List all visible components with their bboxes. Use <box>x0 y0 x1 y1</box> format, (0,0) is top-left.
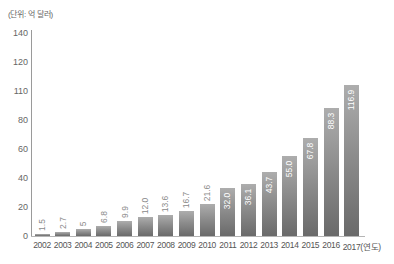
x-tick-label: 2007 <box>136 240 154 250</box>
y-tick-label: 40 <box>18 173 28 183</box>
bar-value-label: 16.7 <box>181 191 191 208</box>
x-tick-label: 2003 <box>54 240 72 250</box>
x-axis-line <box>31 236 365 237</box>
bar-value-label: 116.9 <box>347 89 357 110</box>
bar-value-label: 55.0 <box>285 160 295 177</box>
bar-value-label: 2.7 <box>58 217 68 229</box>
x-tick-label: 2005 <box>95 240 113 250</box>
bar-value-label: 88.3 <box>326 112 336 129</box>
bar-value-label: 13.6 <box>161 195 171 212</box>
y-tick-label: 110 <box>14 86 28 96</box>
bar-2005 <box>96 226 111 236</box>
x-tick-label: 2011 <box>219 240 236 250</box>
y-axis-line <box>31 30 32 237</box>
bar-value-label: 1.5 <box>37 219 47 231</box>
y-tick-label: 140 <box>13 28 28 38</box>
bar-2004 <box>76 229 91 236</box>
x-tick-label: 2016 <box>322 240 340 250</box>
bar-value-label: 9.9 <box>120 206 130 218</box>
x-tick-label: 2012 <box>240 240 258 250</box>
x-tick-label: 2010 <box>198 240 216 250</box>
bar-value-label: 32.0 <box>223 192 233 209</box>
bar-value-label: 6.8 <box>99 211 109 223</box>
x-tick-label: 2013 <box>260 240 278 250</box>
bar-value-label: 67.8 <box>305 142 315 159</box>
bar-2002 <box>35 234 50 236</box>
bar-value-label: 12.0 <box>140 197 150 214</box>
x-tick-label: 2017(연도) <box>343 240 381 252</box>
x-tick-label: 2015 <box>302 240 320 250</box>
bar-value-label: 43.7 <box>264 176 274 193</box>
x-tick-label: 2006 <box>116 240 134 250</box>
y-tick-label: 0 <box>23 231 28 241</box>
y-tick-label: 20 <box>18 202 28 212</box>
y-tick-label: 60 <box>18 144 28 154</box>
bar-2006 <box>117 221 132 236</box>
y-tick-label: 120 <box>13 57 28 67</box>
bar-value-label: 36.1 <box>243 188 253 205</box>
y-tick-label: 80 <box>18 115 28 125</box>
x-tick-label: 2004 <box>74 240 92 250</box>
bar-2010 <box>200 204 215 236</box>
bar-value-label: 21.6 <box>202 184 212 201</box>
bar-2009 <box>179 211 194 236</box>
x-tick-label: 2009 <box>178 240 196 250</box>
bar-2007 <box>138 217 153 236</box>
bar-2003 <box>55 232 70 236</box>
x-tick-label: 2014 <box>281 240 299 250</box>
x-tick-label: 2002 <box>33 240 51 250</box>
x-tick-label: 2008 <box>157 240 175 250</box>
bar-value-label: 5 <box>78 221 88 226</box>
bar-2008 <box>158 215 173 236</box>
unit-label: (단위: 억 달러) <box>8 8 53 19</box>
